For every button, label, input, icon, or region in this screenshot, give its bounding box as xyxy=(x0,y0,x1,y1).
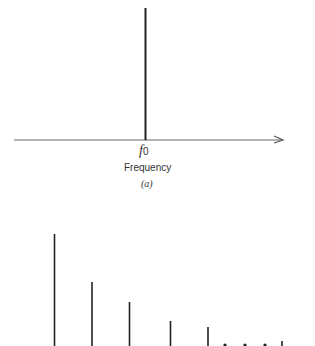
figure-caption-a: (a) xyxy=(141,178,153,189)
x-tick-label-f0: f0 xyxy=(139,142,148,159)
figure-b-plot xyxy=(0,200,315,346)
figure-b-harmonic-spectrum xyxy=(0,200,315,346)
figure-a-single-spectral-line: f0 Frequency (a) xyxy=(0,0,315,200)
subscript-zero: 0 xyxy=(143,146,149,157)
x-axis-label: Frequency xyxy=(124,162,171,173)
